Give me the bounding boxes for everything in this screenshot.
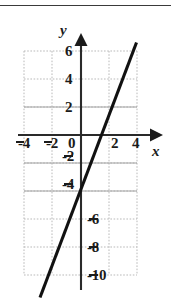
- x-tick-neg4: -4: [18, 136, 30, 151]
- x-axis-arrowhead: [150, 129, 163, 142]
- y-tick-neg6: -6: [87, 212, 99, 227]
- y-tick-6: 6: [65, 44, 72, 59]
- y-tick-4: 4: [65, 72, 72, 87]
- y-tick-neg10: -10: [87, 268, 106, 283]
- y-tick-2: 2: [65, 100, 72, 115]
- graph-screenshot: y x 6 4 2 -4 -2 0 2 4 -2 -4 -6 -8 -10: [0, 0, 171, 307]
- plotted-line: [40, 43, 137, 298]
- x-tick-neg2: -2: [46, 136, 58, 151]
- y-axis-arrowhead: [75, 33, 88, 46]
- x-tick-2: 2: [111, 136, 118, 151]
- y-tick-neg8: -8: [87, 240, 99, 255]
- y-tick-neg2: -2: [62, 149, 74, 164]
- coordinate-plane-figure: y x 6 4 2 -4 -2 0 2 4 -2 -4 -6 -8 -10: [0, 0, 171, 307]
- y-axis-label: y: [60, 23, 67, 38]
- x-tick-4: 4: [132, 136, 139, 151]
- x-axis-label: x: [152, 144, 160, 159]
- coordinate-plane-svg: [0, 0, 171, 307]
- y-tick-neg4: -4: [62, 177, 74, 192]
